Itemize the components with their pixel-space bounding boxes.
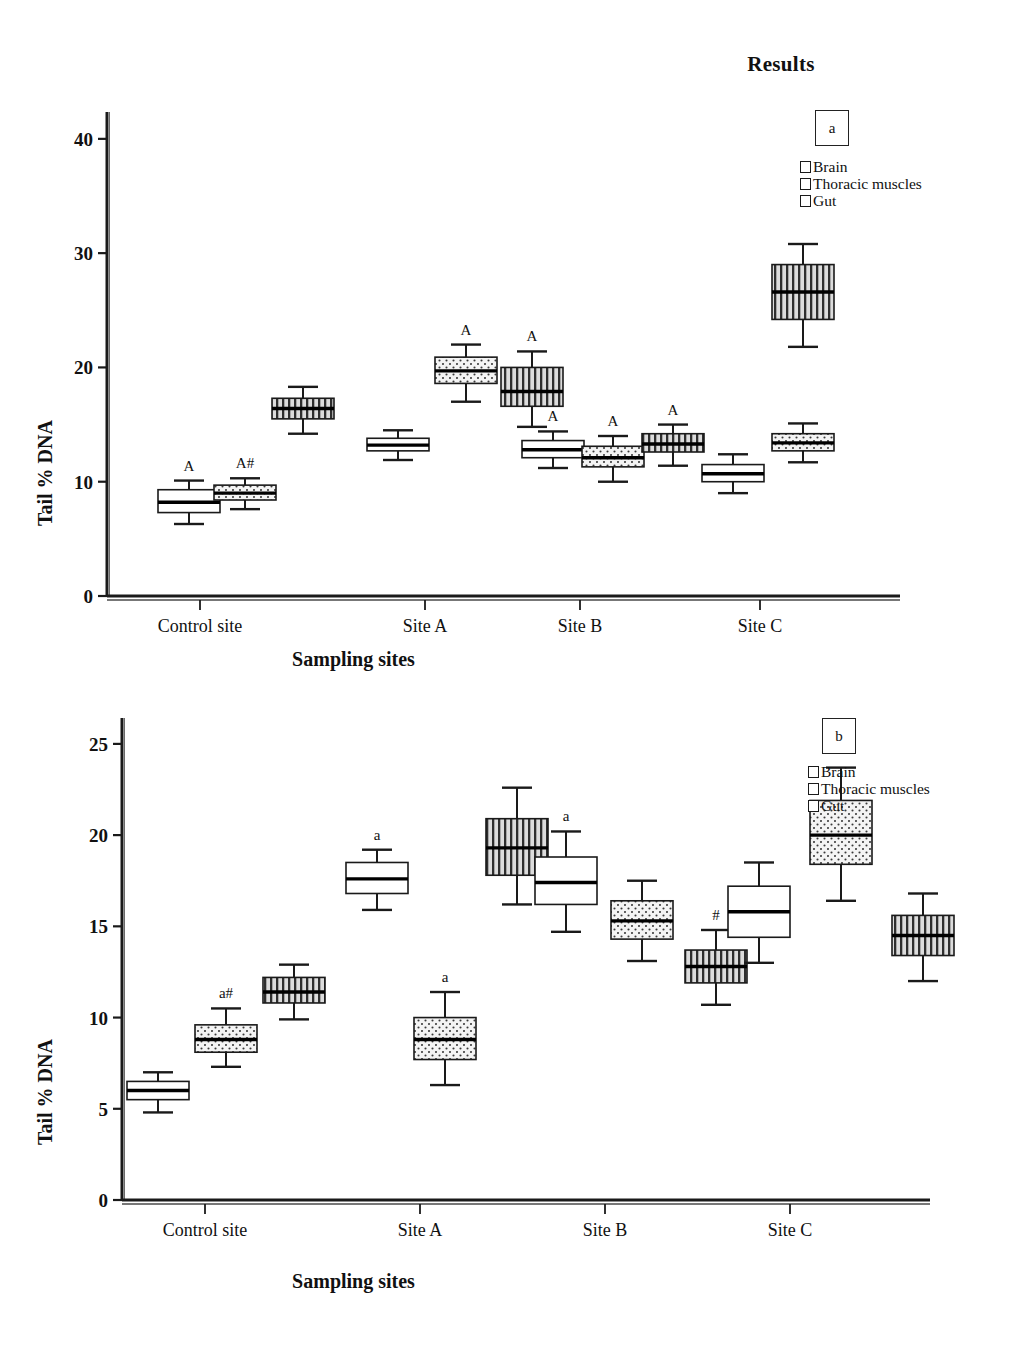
legend-label-thoracic: Thoracic muscles [821, 780, 930, 797]
boxplot-box [772, 244, 834, 347]
legend-label-brain: Brain [821, 763, 855, 780]
significance-annotation: A# [236, 455, 255, 471]
significance-annotation: # [712, 907, 720, 923]
boxplot-box [272, 387, 334, 434]
boxplot-box [892, 893, 954, 981]
page-title: Results [0, 52, 1017, 77]
panel-tag-b: b [822, 718, 856, 754]
figure-panel-b: b Brain Thoracic muscles Gut Tail % DNA … [0, 700, 1017, 1320]
boxplot-box: A# [214, 455, 276, 509]
significance-annotation: A [608, 413, 619, 429]
boxplot-box [728, 862, 790, 962]
panel-tag-b-label: b [835, 728, 843, 745]
legend-swatch-gut-icon [808, 800, 819, 812]
legend-label-gut: Gut [813, 192, 836, 209]
boxplot-box: A [642, 402, 704, 466]
legend-label-brain: Brain [813, 158, 847, 175]
legend-item-brain: Brain [808, 763, 930, 780]
x-axis-title-b: Sampling sites [0, 1270, 862, 1293]
y-tick-label: 40 [74, 129, 93, 150]
y-tick-label: 5 [99, 1099, 109, 1120]
boxes-group: a#aaa# [127, 768, 954, 1113]
boxplot-box: A [158, 458, 220, 524]
legend-swatch-thoracic-icon [808, 783, 819, 795]
boxplot-box: A [582, 413, 644, 482]
figure-panel-a: a Brain Thoracic muscles Gut Tail % DNA … [0, 96, 1017, 696]
legend-swatch-gut-icon [800, 195, 811, 207]
legend-item-gut: Gut [800, 192, 922, 209]
y-tick-label: 0 [84, 586, 94, 607]
y-tick-label: 25 [89, 734, 108, 755]
significance-annotation: A [668, 402, 679, 418]
x-tick-label: Site B [583, 1220, 628, 1240]
x-tick-label: Site C [768, 1220, 813, 1240]
boxplot-box [611, 881, 673, 961]
boxplot-box [367, 430, 429, 460]
boxplot-box [702, 454, 764, 493]
legend-item-thoracic: Thoracic muscles [808, 780, 930, 797]
legend-item-brain: Brain [800, 158, 922, 175]
y-tick-label: 20 [74, 357, 93, 378]
legend-item-thoracic: Thoracic muscles [800, 175, 922, 192]
legend-swatch-brain-icon [800, 161, 811, 173]
significance-annotation: a [442, 969, 449, 985]
y-tick-label: 15 [89, 916, 108, 937]
x-tick-label: Site B [558, 616, 603, 636]
x-tick-label: Site A [403, 616, 448, 636]
significance-annotation: a [563, 808, 570, 824]
legend-swatch-brain-icon [808, 766, 819, 778]
boxplot-box: A [435, 322, 497, 402]
y-tick-label: 0 [99, 1190, 109, 1211]
y-tick-label: 30 [74, 243, 93, 264]
significance-annotation: A [548, 408, 559, 424]
legend-b: Brain Thoracic muscles Gut [808, 763, 930, 814]
x-tick-label: Site C [738, 616, 783, 636]
boxplot-box [772, 423, 834, 462]
boxes-group: AA#AAAAA [158, 244, 834, 524]
y-tick-label: 10 [89, 1008, 108, 1029]
legend-label-gut: Gut [821, 797, 844, 814]
y-axis-title-a: Tail % DNA [34, 420, 57, 526]
panel-tag-a-label: a [829, 120, 836, 137]
x-tick-label: Site A [398, 1220, 443, 1240]
significance-annotation: A [461, 322, 472, 338]
significance-annotation: A [184, 458, 195, 474]
boxplot-box [127, 1072, 189, 1112]
significance-annotation: a [374, 827, 381, 843]
y-axis-title-b: Tail % DNA [34, 1039, 57, 1145]
significance-annotation: A [527, 328, 538, 344]
boxplot-box: a [414, 969, 476, 1085]
y-tick-label: 10 [74, 472, 93, 493]
x-axis-title-a: Sampling sites [0, 648, 862, 671]
boxplot-box [263, 965, 325, 1020]
x-tick-label: Control site [158, 616, 243, 636]
boxplot-box: a [346, 827, 408, 910]
axis-group: 0510152025Control siteSite ASite BSite C [89, 718, 930, 1240]
significance-annotation: a# [219, 985, 234, 1001]
legend-a: Brain Thoracic muscles Gut [800, 158, 922, 209]
legend-swatch-thoracic-icon [800, 178, 811, 190]
legend-label-thoracic: Thoracic muscles [813, 175, 922, 192]
boxplot-box: a# [195, 985, 257, 1066]
y-tick-label: 20 [89, 825, 108, 846]
panel-tag-a: a [815, 110, 849, 146]
x-tick-label: Control site [163, 1220, 248, 1240]
legend-item-gut: Gut [808, 797, 930, 814]
